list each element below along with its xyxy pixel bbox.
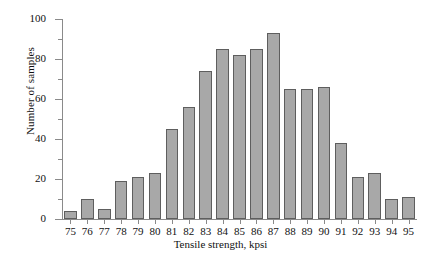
x-tick-label: 79 bbox=[130, 225, 147, 237]
x-tick bbox=[70, 220, 71, 224]
bar bbox=[385, 199, 398, 219]
x-tick-label: 90 bbox=[316, 225, 333, 237]
x-tick-label: 75 bbox=[62, 225, 79, 237]
x-tick bbox=[206, 220, 207, 224]
x-tick-label: 82 bbox=[180, 225, 197, 237]
bar bbox=[233, 55, 246, 219]
bar bbox=[115, 181, 128, 219]
y-minor-tick bbox=[58, 159, 62, 160]
x-tick-label: 87 bbox=[265, 225, 282, 237]
x-tick bbox=[121, 220, 122, 224]
bar bbox=[267, 33, 280, 219]
x-tick bbox=[392, 220, 393, 224]
y-tick: 60 bbox=[55, 99, 62, 100]
y-tick-label: 0 bbox=[41, 212, 47, 224]
y-axis-line bbox=[62, 19, 63, 220]
y-tick: 0 bbox=[55, 219, 62, 220]
bar bbox=[335, 143, 348, 219]
x-tick-label: 88 bbox=[282, 225, 299, 237]
x-tick-label: 81 bbox=[163, 225, 180, 237]
x-tick bbox=[307, 220, 308, 224]
x-tick-label: 80 bbox=[147, 225, 164, 237]
x-tick-label: 85 bbox=[231, 225, 248, 237]
x-tick bbox=[155, 220, 156, 224]
x-tick-label: 86 bbox=[248, 225, 265, 237]
x-tick bbox=[223, 220, 224, 224]
bar bbox=[250, 49, 263, 219]
bar bbox=[64, 211, 77, 219]
x-tick bbox=[341, 220, 342, 224]
bar bbox=[98, 209, 111, 219]
x-tick-label: 94 bbox=[383, 225, 400, 237]
x-tick bbox=[189, 220, 190, 224]
y-minor-tick bbox=[58, 79, 62, 80]
x-tick bbox=[87, 220, 88, 224]
bar bbox=[216, 49, 229, 219]
y-minor-tick bbox=[58, 119, 62, 120]
bar bbox=[318, 87, 331, 219]
y-tick: 100 bbox=[55, 19, 62, 20]
bar bbox=[166, 129, 179, 219]
x-tick-label: 89 bbox=[299, 225, 316, 237]
y-tick: 80 bbox=[55, 59, 62, 60]
bar bbox=[301, 89, 314, 219]
x-tick-label: 78 bbox=[113, 225, 130, 237]
x-tick-label: 95 bbox=[400, 225, 417, 237]
bar bbox=[81, 199, 94, 219]
x-tick-label: 93 bbox=[366, 225, 383, 237]
y-tick: 20 bbox=[55, 179, 62, 180]
x-tick bbox=[172, 220, 173, 224]
x-tick bbox=[375, 220, 376, 224]
y-tick-label: 100 bbox=[30, 12, 47, 24]
x-tick bbox=[324, 220, 325, 224]
x-tick-label: 76 bbox=[79, 225, 96, 237]
y-tick-label: 60 bbox=[35, 92, 46, 104]
x-tick bbox=[290, 220, 291, 224]
bar bbox=[132, 177, 145, 219]
y-axis-title: Number of samples bbox=[24, 11, 36, 171]
x-tick-label: 84 bbox=[214, 225, 231, 237]
bar bbox=[199, 71, 212, 219]
x-tick bbox=[104, 220, 105, 224]
y-minor-tick bbox=[58, 199, 62, 200]
bar bbox=[352, 177, 365, 219]
x-axis-title: Tensile strength, kpsi bbox=[0, 238, 441, 250]
x-tick bbox=[240, 220, 241, 224]
histogram-figure: Number of samples 020406080100 757677787… bbox=[0, 0, 441, 261]
x-tick-label: 92 bbox=[349, 225, 366, 237]
bar bbox=[284, 89, 297, 219]
bar bbox=[149, 173, 162, 219]
plot-area: 020406080100 757677787980818283848586878… bbox=[62, 19, 417, 219]
bar bbox=[368, 173, 381, 219]
bar bbox=[183, 107, 196, 219]
bar bbox=[402, 197, 415, 219]
x-tick bbox=[138, 220, 139, 224]
y-tick-label: 40 bbox=[35, 132, 46, 144]
x-tick bbox=[358, 220, 359, 224]
x-tick-label: 77 bbox=[96, 225, 113, 237]
x-tick bbox=[273, 220, 274, 224]
y-tick-label: 80 bbox=[35, 52, 46, 64]
x-tick bbox=[409, 220, 410, 224]
x-tick-label: 91 bbox=[332, 225, 349, 237]
y-minor-tick bbox=[58, 39, 62, 40]
y-tick-label: 20 bbox=[35, 172, 46, 184]
y-tick: 40 bbox=[55, 139, 62, 140]
x-tick-label: 83 bbox=[197, 225, 214, 237]
x-tick bbox=[256, 220, 257, 224]
